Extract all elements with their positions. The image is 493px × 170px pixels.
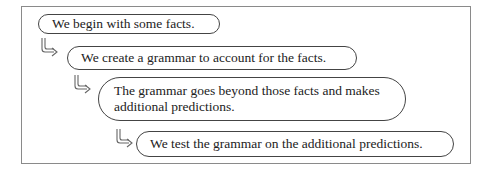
step-1-text: We begin with some facts. <box>52 16 195 32</box>
step-3-line-2: additional predictions. <box>114 99 235 115</box>
step-3-line-1: The grammar goes beyond those facts and … <box>114 83 380 99</box>
hooked-right-arrow-icon <box>39 37 63 57</box>
step-2-box: We create a grammar to account for the f… <box>67 46 357 70</box>
step-3-box: The grammar goes beyond those facts and … <box>98 77 406 121</box>
step-1-box: We begin with some facts. <box>38 14 220 34</box>
step-4-text: We test the grammar on the additional pr… <box>150 136 423 152</box>
hooked-right-arrow-icon <box>114 128 138 148</box>
hooked-right-arrow-icon <box>72 74 96 94</box>
step-2-text: We create a grammar to account for the f… <box>81 50 326 66</box>
step-4-box: We test the grammar on the additional pr… <box>136 131 454 157</box>
